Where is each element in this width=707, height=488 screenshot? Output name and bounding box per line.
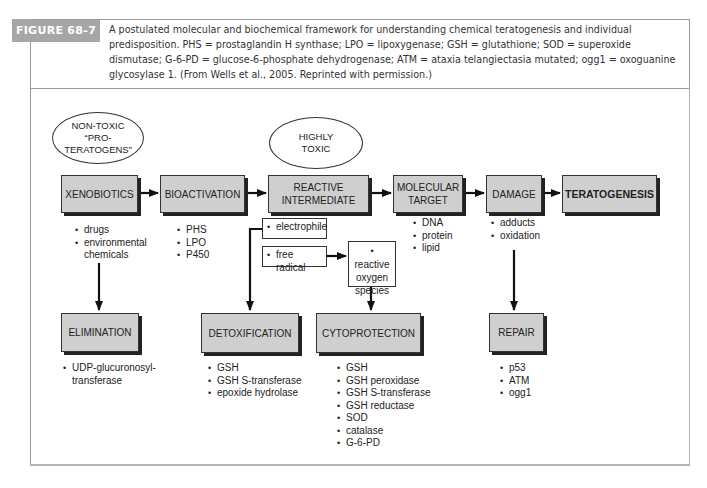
list-item: transferase <box>63 375 156 388</box>
ros-line: reactive <box>354 259 389 270</box>
damage-box: DAMAGE <box>486 175 542 213</box>
detoxification-box: DETOXIFICATION <box>201 313 299 353</box>
list-item: GSH <box>208 362 301 375</box>
teratogenesis-box: TERATOGENESIS <box>562 175 657 213</box>
list-item: environmental <box>75 237 147 250</box>
list-item: p53 <box>500 362 531 375</box>
list-item: ATM <box>500 375 531 388</box>
box-label: CYTOPROTECTION <box>322 327 415 340</box>
list-item: GSH reductase <box>337 400 430 413</box>
list-item: PHS <box>177 224 209 237</box>
ellipse-line: TOXIC <box>299 143 334 155</box>
repair-list: p53 ATM ogg1 <box>500 362 531 400</box>
reactive-intermediate-box: REACTIVEINTERMEDIATE <box>268 175 369 213</box>
ros-box: • reactive oxygen species <box>348 241 396 287</box>
list-item: lipid <box>413 242 453 255</box>
ellipse-line: HIGHLY <box>299 131 334 143</box>
elimination-list: UDP-glucuronosyl- transferase <box>63 362 156 387</box>
ros-line: species <box>353 284 391 297</box>
list-item: LPO <box>177 237 209 250</box>
ellipse-line: NON-TOXIC <box>64 120 132 132</box>
detoxification-list: GSH GSH S-transferase epoxide hydrolase <box>208 362 301 400</box>
non-toxic-ellipse: NON-TOXIC “PRO- TERATOGENS” <box>52 112 144 164</box>
list-item: GSH <box>337 362 430 375</box>
bioactivation-box: BIOACTIVATION <box>160 175 245 213</box>
damage-list: adducts oxidation <box>491 217 540 242</box>
list-item: P450 <box>177 249 209 262</box>
ellipse-line: “PRO- <box>64 132 132 144</box>
box-label: DAMAGE <box>492 188 535 201</box>
list-item: G-6-PD <box>337 437 430 450</box>
list-item: GSH S-transferase <box>208 375 301 388</box>
box-label: BIOACTIVATION <box>165 188 241 201</box>
xenobiotics-list: drugs environmental chemicals <box>75 224 147 262</box>
molecular-target-box: MOLECULARTARGET <box>393 175 463 213</box>
box-label: REACTIVE <box>282 181 356 194</box>
electrophile-box: electrophile <box>262 218 327 239</box>
list-item: epoxide hydrolase <box>208 387 301 400</box>
list-item: ogg1 <box>500 387 531 400</box>
list-item: electrophile <box>267 221 322 234</box>
ros-line: oxygen <box>353 271 391 284</box>
list-item: protein <box>413 230 453 243</box>
bioactivation-list: PHS LPO P450 <box>177 224 209 262</box>
highly-toxic-ellipse: HIGHLY TOXIC <box>269 117 363 169</box>
cytoprotection-box: CYTOPROTECTION <box>316 313 421 353</box>
box-label: XENOBIOTICS <box>65 188 133 201</box>
elimination-box: ELIMINATION <box>61 313 139 352</box>
box-label: TARGET <box>397 194 459 207</box>
list-item: chemicals <box>75 249 147 262</box>
arrow-electrophile-detox <box>250 229 262 310</box>
list-item: catalase <box>337 425 430 438</box>
list-item: adducts <box>491 217 540 230</box>
box-label: MOLECULAR <box>397 181 459 194</box>
xenobiotics-box: XENOBIOTICS <box>61 175 138 213</box>
free-radical-box: free radical <box>262 246 327 267</box>
list-item: drugs <box>75 224 147 237</box>
list-item: oxidation <box>491 230 540 243</box>
box-label: ELIMINATION <box>68 326 131 339</box>
cytoprotection-list: GSH GSH peroxidase GSH S-transferase GSH… <box>337 362 430 450</box>
list-item: DNA <box>413 217 453 230</box>
molecular-target-list: DNA protein lipid <box>413 217 453 255</box>
box-label: REPAIR <box>498 326 535 339</box>
list-item: GSH S-transferase <box>337 387 430 400</box>
list-item: GSH peroxidase <box>337 375 430 388</box>
box-label: DETOXIFICATION <box>209 327 292 340</box>
list-item: UDP-glucuronosyl- <box>63 362 156 375</box>
list-item: SOD <box>337 412 430 425</box>
box-label: INTERMEDIATE <box>282 194 356 207</box>
repair-box: REPAIR <box>489 313 544 352</box>
list-item: free radical <box>267 249 322 274</box>
box-label: TERATOGENESIS <box>565 188 654 201</box>
ellipse-line: TERATOGENS” <box>64 144 132 156</box>
